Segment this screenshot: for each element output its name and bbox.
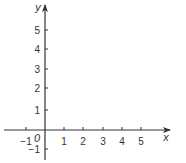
y-axis-label: y bbox=[34, 1, 42, 13]
y-tick-label: 4 bbox=[34, 44, 40, 55]
x-axis-label: x bbox=[162, 131, 169, 143]
x-tick-label: 4 bbox=[119, 136, 125, 147]
coordinate-axes: −1 1 2 3 4 5 5 4 3 2 1 −1 0 x y bbox=[0, 0, 186, 163]
x-tick-label: 3 bbox=[100, 136, 106, 147]
y-tick-label: −1 bbox=[29, 144, 41, 155]
y-tick-label: 3 bbox=[34, 64, 40, 75]
y-tick-label: 1 bbox=[34, 105, 40, 116]
x-tick-label: 5 bbox=[138, 136, 144, 147]
x-tick-label: 2 bbox=[80, 136, 86, 147]
y-tick-label: 2 bbox=[34, 83, 40, 94]
origin-label: 0 bbox=[34, 132, 41, 144]
y-tick-label: 5 bbox=[34, 25, 40, 36]
x-tick-label: 1 bbox=[61, 136, 67, 147]
